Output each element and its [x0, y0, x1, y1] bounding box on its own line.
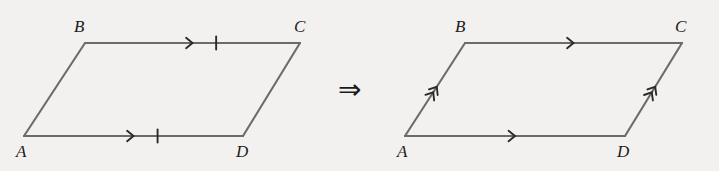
right-vertex-label-D: D — [617, 143, 629, 160]
right-edge-DC — [625, 43, 682, 136]
left-vertex-label-B: B — [74, 18, 84, 35]
right-vertex-label-B: B — [455, 18, 465, 35]
left-edge-BC — [85, 36, 300, 49]
right-vertex-label-C: C — [675, 18, 686, 35]
left-parallelogram — [24, 36, 300, 142]
right-parallelogram — [405, 38, 682, 141]
implies-arrow-icon: ⇒ — [338, 76, 361, 104]
right-vertex-label-A: A — [397, 143, 407, 160]
right-edge-AB — [405, 43, 465, 136]
left-edge-AD — [24, 129, 243, 142]
right-edge-AD — [405, 131, 625, 141]
left-vertex-label-A: A — [16, 143, 26, 160]
left-vertex-label-C: C — [294, 18, 305, 35]
left-vertex-label-D: D — [236, 143, 248, 160]
left-edge-AB — [24, 43, 85, 136]
left-edge-DC — [243, 43, 300, 136]
geometry-figure: A B C D ⇒ A B C D — [0, 0, 719, 171]
right-edge-BC — [465, 38, 682, 48]
